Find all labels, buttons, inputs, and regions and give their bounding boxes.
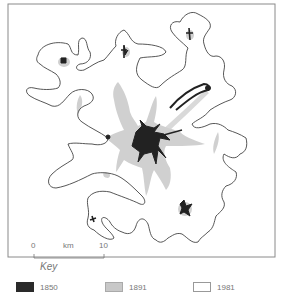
scale-unit-label: km [63, 241, 74, 250]
swatch-1981 [193, 282, 211, 292]
key-item-1981: 1981 [193, 282, 235, 292]
urban-growth-map: 0 km 10 [0, 0, 284, 262]
scale-start-label: 0 [31, 241, 36, 250]
key-label-1850: 1850 [40, 283, 58, 292]
key-label-1981: 1981 [217, 283, 235, 292]
swatch-1850 [16, 282, 34, 292]
key-item-1850: 1850 [16, 282, 58, 292]
swatch-1891 [105, 282, 123, 292]
key-title: Key [40, 261, 57, 272]
key-label-1891: 1891 [129, 283, 147, 292]
scale-end-label: 10 [99, 241, 108, 250]
key-item-1891: 1891 [105, 282, 147, 292]
